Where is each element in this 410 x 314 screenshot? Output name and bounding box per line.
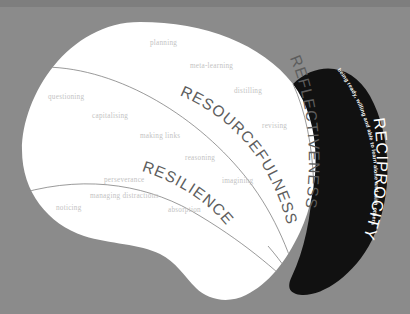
learning-power-diagram: RESOURCEFULNESS RESILIENCE REFLECTIVENES…: [0, 0, 410, 314]
capacity-label[interactable]: revising: [262, 122, 287, 130]
capacity-label[interactable]: meta-learning: [190, 62, 233, 70]
capacity-label[interactable]: managing distractions: [90, 192, 159, 200]
diagram-canvas: RESOURCEFULNESS RESILIENCE REFLECTIVENES…: [0, 0, 410, 314]
capacity-label[interactable]: perseverance: [104, 176, 145, 184]
capacity-label[interactable]: noticing: [56, 204, 82, 212]
capacity-label[interactable]: making links: [140, 132, 180, 140]
capacity-label[interactable]: distilling: [234, 87, 262, 95]
capacity-label[interactable]: imagining: [222, 177, 254, 185]
capacity-label[interactable]: capitalising: [92, 112, 128, 120]
capacity-label[interactable]: questioning: [48, 93, 84, 101]
capacity-label[interactable]: planning: [150, 39, 177, 47]
capacity-label[interactable]: absorption: [168, 206, 201, 214]
capacity-label[interactable]: reasoning: [185, 154, 215, 162]
